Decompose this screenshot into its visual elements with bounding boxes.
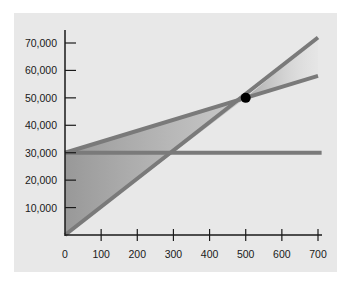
total-cost-line [65, 76, 318, 153]
x-tick-label: 500 [237, 248, 255, 260]
y-tick-label: 70,000 [25, 37, 57, 49]
x-tick-label: 300 [165, 248, 183, 260]
annotation-points [241, 93, 251, 103]
x-tick-label: 400 [201, 248, 219, 260]
y-tick-label: 30,000 [25, 147, 57, 159]
x-tick-label: 100 [92, 248, 110, 260]
x-axis-ticks: 0100200300400500600700 [62, 229, 327, 260]
y-tick-label: 40,000 [25, 119, 57, 131]
y-tick-label: 50,000 [25, 92, 57, 104]
x-tick-label: 600 [273, 248, 291, 260]
x-tick-label: 700 [309, 248, 327, 260]
break-even-chart: 0100200300400500600700 10,00020,00030,00… [0, 0, 350, 285]
x-tick-label: 0 [62, 248, 68, 260]
y-tick-label: 60,000 [25, 64, 57, 76]
y-tick-label: 20,000 [25, 174, 57, 186]
total-revenue-line [65, 38, 318, 235]
break-even-point [241, 93, 251, 103]
y-tick-label: 10,000 [25, 202, 57, 214]
data-lines [65, 38, 322, 235]
x-tick-label: 200 [129, 248, 147, 260]
